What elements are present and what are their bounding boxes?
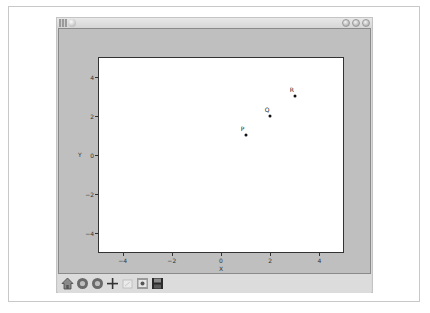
figure-canvas[interactable]: −4−2024420−2−4 X Y PQR (58, 28, 371, 274)
plot-axes[interactable] (98, 57, 344, 253)
zoom-button[interactable] (120, 276, 135, 291)
app-icon[interactable] (59, 19, 67, 27)
configure-subplots-icon (136, 277, 149, 290)
y-tick-mark (95, 194, 98, 195)
x-tick-label: −2 (167, 257, 176, 264)
x-tick-label: 4 (317, 257, 321, 264)
data-point (293, 95, 296, 98)
home-button[interactable] (60, 276, 75, 291)
pan-button[interactable] (105, 276, 120, 291)
maximize-button[interactable] (352, 19, 360, 27)
y-tick-label: 4 (90, 73, 94, 80)
zoom-rect-icon (121, 277, 134, 290)
y-tick-label: −4 (85, 230, 94, 237)
y-axis-label: Y (78, 151, 82, 158)
y-tick-label: 2 (90, 112, 94, 119)
titlebar[interactable] (57, 18, 372, 28)
x-tick-mark (123, 253, 124, 256)
minimize-button[interactable] (342, 19, 350, 27)
x-tick-label: −4 (118, 257, 127, 264)
forward-icon (91, 277, 104, 290)
x-tick-mark (172, 253, 173, 256)
y-tick-mark (95, 77, 98, 78)
point-label: Q (265, 106, 270, 113)
y-tick-mark (95, 233, 98, 234)
forward-button[interactable] (90, 276, 105, 291)
plot-window: −4−2024420−2−4 X Y PQR (56, 17, 373, 293)
point-label: R (290, 86, 294, 93)
configure-subplots-button[interactable] (135, 276, 150, 291)
y-tick-label: −2 (85, 191, 94, 198)
y-tick-mark (95, 155, 98, 156)
home-icon (61, 277, 74, 290)
x-tick-mark (221, 253, 222, 256)
y-tick-label: 0 (90, 152, 94, 159)
x-tick-label: 2 (268, 257, 272, 264)
x-axis-label: X (219, 265, 223, 272)
window-menu-icon[interactable] (68, 19, 76, 27)
navigation-toolbar (58, 274, 371, 293)
y-tick-mark (95, 116, 98, 117)
x-tick-label: 0 (219, 257, 223, 264)
save-icon (151, 277, 164, 290)
save-button[interactable] (150, 276, 165, 291)
back-icon (76, 277, 89, 290)
close-button[interactable] (362, 19, 370, 27)
x-tick-mark (270, 253, 271, 256)
back-button[interactable] (75, 276, 90, 291)
x-tick-mark (319, 253, 320, 256)
point-label: P (241, 125, 245, 132)
data-point (244, 134, 247, 137)
move-icon (106, 277, 119, 290)
data-point (269, 114, 272, 117)
